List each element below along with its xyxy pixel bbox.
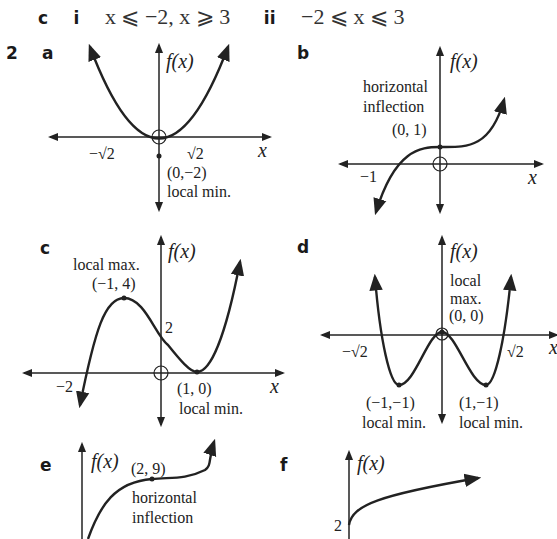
graph-a: f(x) x −√2 √2 (0,−2) local min. [50,45,270,210]
svg-text:−√2: −√2 [89,145,115,162]
svg-text:(1, 0): (1, 0) [177,380,212,398]
svg-text:(−1,−1): (−1,−1) [366,394,415,412]
svg-text:−1: −1 [360,168,377,185]
svg-text:f(x): f(x) [166,50,194,73]
svg-text:f(x): f(x) [168,240,196,263]
graph-e: f(x) (2, 9) horizontal inflection [82,442,214,539]
svg-text:(0, 0): (0, 0) [449,307,484,325]
svg-text:local min.: local min. [459,414,523,431]
svg-text:inflection: inflection [363,98,424,115]
svg-text:local min.: local min. [362,414,426,431]
svg-text:local min.: local min. [167,183,231,200]
svg-text:2: 2 [334,517,342,534]
svg-text:−√2: −√2 [342,343,368,360]
graph-d: f(x) x local max. (0, 0) −√2 √2 (−1,−1) … [322,237,557,431]
svg-text:x: x [527,166,537,188]
svg-text:local max.: local max. [73,256,140,273]
svg-text:√2: √2 [507,343,524,360]
svg-text:f(x): f(x) [450,50,478,73]
svg-text:f(x): f(x) [91,450,119,473]
svg-text:(2, 9): (2, 9) [131,460,166,478]
svg-text:√2: √2 [187,145,204,162]
svg-text:2: 2 [165,319,173,336]
graph-f: f(x) 2 [334,452,478,539]
svg-text:x: x [548,336,557,358]
graphs-canvas: f(x) x −√2 √2 (0,−2) local min. f(x) x h… [0,0,557,539]
svg-text:(0,−2): (0,−2) [167,164,207,182]
svg-text:x: x [257,139,267,161]
svg-text:f(x): f(x) [450,240,478,263]
svg-text:(1,−1): (1,−1) [459,394,499,412]
graph-b: f(x) x horizontal inflection (0, 1) −1 [340,48,542,212]
svg-text:local min.: local min. [179,400,243,417]
svg-text:(−1, 4): (−1, 4) [92,275,136,293]
svg-text:max.: max. [450,290,482,307]
svg-text:horizontal: horizontal [132,489,197,506]
svg-text:f(x): f(x) [357,452,385,475]
svg-text:local: local [450,272,482,289]
svg-text:horizontal: horizontal [363,78,428,95]
svg-text:(0, 1): (0, 1) [392,121,427,139]
svg-text:inflection: inflection [132,509,193,526]
svg-text:−2: −2 [56,378,73,395]
svg-text:x: x [269,375,279,397]
graph-c: f(x) x local max. (−1, 4) 2 −2 (1, 0) lo… [24,237,283,425]
